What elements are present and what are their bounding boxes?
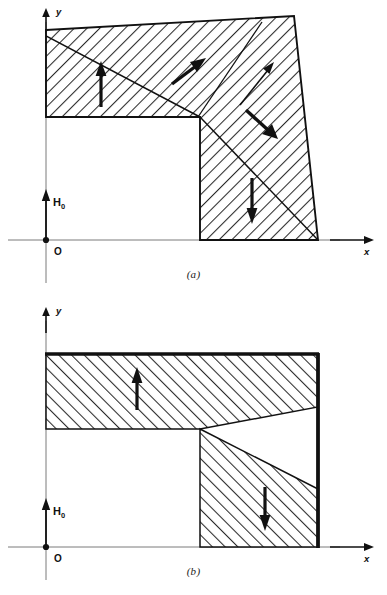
y-axis-arrow-b <box>42 307 50 333</box>
origin-dot-a <box>43 237 49 243</box>
field-label-b: H0 <box>53 505 65 520</box>
origin-dot-b <box>43 544 49 550</box>
panel-a: y x H0 O <box>0 0 387 298</box>
field-arrow-a <box>42 189 50 240</box>
x-axis-label-a: x <box>364 246 369 257</box>
caption-a: (a) <box>0 268 387 280</box>
x-axis-label-b: x <box>364 553 369 564</box>
y-axis-label-a: y <box>56 6 61 17</box>
field-label-b-text: H <box>53 505 61 517</box>
panel-b-drawing <box>0 297 387 595</box>
panel-b: y x H0 O <box>0 297 387 595</box>
figure-root: y x H0 O (a) <box>0 0 387 595</box>
field-label-a: H0 <box>53 196 65 211</box>
domain-region-b <box>45 353 319 548</box>
y-axis-label-b: y <box>56 305 61 316</box>
origin-label-b: O <box>54 553 62 564</box>
field-arrow-b <box>42 498 50 547</box>
caption-b: (b) <box>0 565 387 577</box>
field-label-a-text: H <box>53 196 61 208</box>
x-axis-arrow-b <box>330 543 374 551</box>
field-label-a-sub: 0 <box>61 202 65 211</box>
x-axis-arrow-a <box>330 236 374 244</box>
field-label-b-sub: 0 <box>61 511 65 520</box>
origin-label-a: O <box>54 246 62 257</box>
domain-region-a <box>46 16 318 240</box>
